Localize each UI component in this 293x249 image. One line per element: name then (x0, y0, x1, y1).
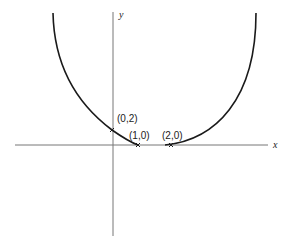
y-axis-label: y (119, 10, 123, 20)
left-branch-curve (53, 13, 138, 145)
right-branch-curve (165, 13, 256, 145)
point-label-2-0: (2,0) (162, 131, 183, 141)
diagram-canvas (0, 0, 293, 249)
x-axis-label: x (273, 140, 277, 150)
point-label-1-0: (1,0) (129, 131, 150, 141)
point-label-0-2: (0,2) (117, 114, 138, 124)
